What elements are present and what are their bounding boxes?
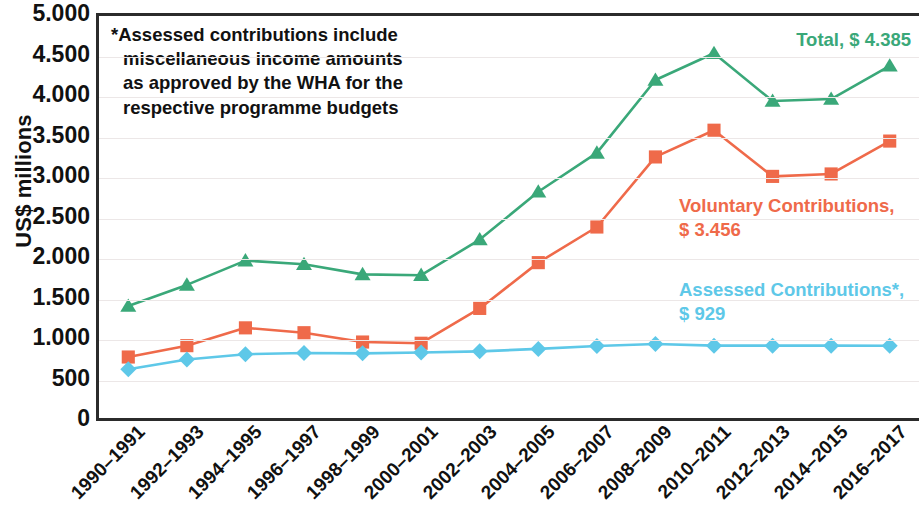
data-point-marker (237, 346, 253, 362)
data-point-marker (647, 336, 663, 352)
data-point-marker (882, 58, 898, 71)
data-point-marker (707, 124, 720, 137)
series-label-assessed-line2: $ 929 (679, 303, 725, 324)
chart-container: US$ millions 05001.0001.5002.0002.5003.0… (0, 0, 924, 513)
gridline (99, 138, 919, 139)
y-tick-label: 2.500 (4, 204, 90, 227)
data-point-marker (766, 170, 779, 183)
series-label-voluntary-line1: Voluntary Contributions, (679, 195, 894, 216)
data-point-marker (296, 345, 312, 361)
data-point-marker (472, 343, 488, 359)
y-tick-label: 3.500 (4, 123, 90, 146)
data-point-marker (590, 220, 603, 233)
data-point-marker (239, 321, 252, 334)
note-line-1: *Assessed contributions include (111, 23, 451, 47)
note-line-2: miscellaneous income amounts (111, 47, 451, 71)
data-point-marker (530, 184, 546, 197)
data-point-marker (297, 326, 310, 339)
gridline (99, 178, 919, 179)
y-tick-label: 1.000 (4, 326, 90, 349)
x-axis-tick-labels: 1990–19911992–19931994–19951996–19971998… (96, 421, 916, 513)
y-tick-label: 1.500 (4, 285, 90, 308)
y-tick-label: 3.000 (4, 164, 90, 187)
y-tick-label: 5.000 (4, 2, 90, 25)
y-tick-label: 0 (4, 407, 90, 430)
gridline (99, 259, 919, 260)
data-point-marker (180, 339, 193, 352)
chart-annotation-note: *Assessed contributions include miscella… (111, 23, 451, 120)
data-point-marker (530, 341, 546, 357)
data-point-marker (883, 135, 896, 148)
y-tick-label: 4.500 (4, 42, 90, 65)
y-tick-label: 2.000 (4, 245, 90, 268)
series-label-total: Total, $ 4.385 (796, 28, 911, 52)
data-point-marker (179, 351, 195, 367)
y-axis-tick-labels: 05001.0001.5002.0002.5003.0003.5004.0004… (0, 0, 90, 513)
series-label-voluntary-line2: $ 3.456 (679, 219, 741, 240)
y-tick-label: 4.000 (4, 83, 90, 106)
note-line-4: respective programme budgets (111, 96, 451, 120)
note-line-3: as approved by the WHA for the (111, 71, 451, 95)
data-point-marker (649, 150, 662, 163)
plot-area: *Assessed contributions include miscella… (96, 13, 919, 421)
data-point-marker (473, 302, 486, 315)
gridline (99, 219, 919, 220)
gridline (99, 300, 919, 301)
y-tick-label: 500 (4, 366, 90, 389)
gridline (99, 340, 919, 341)
gridline (99, 381, 919, 382)
data-point-marker (647, 72, 663, 85)
series-label-assessed-line1: Assessed Contributions*, (679, 279, 904, 300)
gridline (99, 57, 919, 58)
gridline (99, 97, 919, 98)
series-label-total-text: Total, $ 4.385 (796, 29, 911, 50)
series-label-assessed: Assessed Contributions*, $ 929 (679, 278, 911, 325)
